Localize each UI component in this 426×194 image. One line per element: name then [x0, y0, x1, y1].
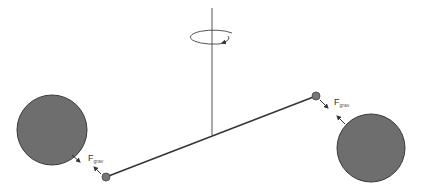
rotation-arrow-icon — [190, 30, 232, 44]
force-arrow-right-small — [320, 100, 328, 108]
force-arrow-left-small — [94, 167, 101, 174]
large-mass-right — [337, 114, 405, 182]
large-mass-left — [17, 95, 87, 165]
small-mass-left — [102, 173, 110, 181]
force-label-right: Fgrav — [334, 97, 350, 108]
torsion-balance-diagram: Fgrav Fgrav — [0, 0, 426, 194]
small-mass-right — [312, 92, 320, 100]
balance-rod — [106, 96, 316, 177]
force-arrow-right-large — [337, 116, 345, 124]
force-label-left: Fgrav — [88, 153, 104, 164]
